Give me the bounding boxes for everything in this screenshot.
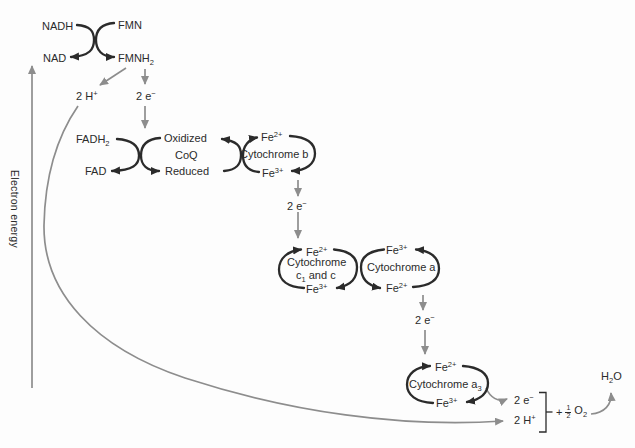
o2-text: O2 <box>574 404 587 421</box>
nad-label: NAD <box>43 52 66 64</box>
plus-sign: + <box>556 406 562 418</box>
label-sup: 2+ <box>319 245 328 254</box>
protons-final-label: 2 H+ <box>514 412 536 426</box>
arrow-oxygen-to-water <box>591 393 611 414</box>
label-sup: 3+ <box>319 282 328 291</box>
label-sup: 3+ <box>449 396 458 405</box>
electrons-cyta-label: 2 e− <box>415 312 435 326</box>
electrons-final-label: 2 e− <box>514 392 534 406</box>
label-text: Fe <box>386 244 399 256</box>
label-text: Fe <box>262 167 275 179</box>
label-text: 2 e <box>136 90 151 102</box>
label-sup: 2+ <box>399 281 408 290</box>
label-sup: + <box>531 413 535 422</box>
coupling-fadh2-coq <box>112 138 160 171</box>
arrow-cyta3-to-electrons <box>486 388 507 400</box>
label-text: Fe <box>436 397 449 409</box>
label-sub: 2 <box>105 139 109 148</box>
coupling-nadh-fmn <box>71 23 114 57</box>
cyta-label: Cytochrome a <box>367 261 435 273</box>
label-text: O <box>613 370 622 382</box>
label-text: 2 e <box>287 200 302 212</box>
electrons-top-label: 2 e− <box>136 88 156 102</box>
label-sup: 2+ <box>448 360 457 369</box>
coq-oxidized-label: Oxidized <box>164 132 207 144</box>
label-text: Fe <box>435 361 448 373</box>
label-text: Cytochrome a <box>409 378 477 390</box>
label-sub: 2 <box>583 410 587 419</box>
label-sup: + <box>93 89 97 98</box>
cytb-fe3-label: Fe3+ <box>262 165 283 179</box>
cytb-label: Cytochrome b <box>240 148 308 160</box>
fraction-denominator: 2 <box>566 413 570 420</box>
fadh2-label: FADH2 <box>76 133 110 150</box>
fmn-label: FMN <box>118 19 142 31</box>
label-text: 2 H <box>76 90 93 102</box>
label-sup: 3+ <box>275 166 284 175</box>
electron-transfer-arrows <box>100 68 611 414</box>
label-text: H <box>601 370 609 382</box>
fad-label: FAD <box>85 165 106 177</box>
protons-top-label: 2 H+ <box>76 88 98 102</box>
electron-transport-chain-diagram: Electron energy NADH FMN NAD FMNH2 2 H+ … <box>0 0 635 448</box>
cyta-fe2-label: Fe2+ <box>386 280 407 294</box>
water-label: H2O <box>601 370 622 387</box>
label-sup: − <box>302 199 306 208</box>
cyta-fe3-label: Fe3+ <box>386 242 407 256</box>
label-text: FMNH <box>118 52 150 64</box>
label-text: Fe <box>261 131 274 143</box>
cytc-label-line1: Cytochrome <box>287 256 346 268</box>
nadh-label: NADH <box>42 20 73 32</box>
label-text: Fe <box>386 282 399 294</box>
label-sup: 2+ <box>274 130 283 139</box>
label-text: 2 e <box>514 394 529 406</box>
label-sup: − <box>151 89 155 98</box>
fmnh2-label: FMNH2 <box>118 52 154 69</box>
diagram-canvas <box>0 0 635 448</box>
label-text: 2 H <box>514 414 531 426</box>
electrons-cytb-label: 2 e− <box>287 198 307 212</box>
label-text: 2 e <box>415 314 430 326</box>
cytc-fe3-label: Fe3+ <box>306 281 327 295</box>
cyta3-label: Cytochrome a3 <box>409 378 482 395</box>
label-text: and c <box>306 269 336 281</box>
one-half-fraction: 12 <box>565 405 571 420</box>
label-sup: − <box>430 313 434 322</box>
coq-reduced-label: Reduced <box>165 165 209 177</box>
cytb-fe2-label: Fe2+ <box>261 129 282 143</box>
label-sub: 3 <box>477 384 481 393</box>
arrow-fmnh2-to-protons <box>100 68 126 85</box>
products-bracket <box>539 393 553 433</box>
label-sup: 3+ <box>399 243 408 252</box>
label-text: O <box>574 404 583 416</box>
half-oxygen-label: +12O2 <box>556 404 587 421</box>
label-sup: − <box>529 393 533 402</box>
label-text: FADH <box>76 133 105 145</box>
cyta3-fe3-label: Fe3+ <box>436 395 457 409</box>
electron-energy-axis-label: Electron energy <box>9 170 21 248</box>
label-sub: 2 <box>150 58 154 67</box>
label-text: Fe <box>306 283 319 295</box>
cyta3-fe2-label: Fe2+ <box>435 359 456 373</box>
coq-label: CoQ <box>175 149 198 161</box>
